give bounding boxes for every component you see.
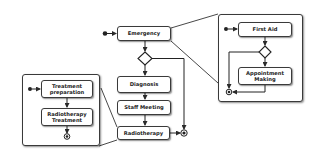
zoom-line-radiotherapy-bottom xyxy=(99,140,117,146)
activity-appointment-making: Appointment Making xyxy=(238,67,292,85)
activity-radiotherapy: Radiotherapy xyxy=(117,126,170,140)
initial-node-icon xyxy=(103,31,108,36)
activity-emergency: Emergency xyxy=(117,26,171,41)
activity-diagram: Emergency Diagnosis Staff Meeting Radiot… xyxy=(0,0,323,157)
activity-diagnosis: Diagnosis xyxy=(117,76,171,93)
zoom-line-emergency-top xyxy=(171,14,218,28)
activity-treatment-preparation: Treatment preparation xyxy=(41,80,93,98)
activity-staff-meeting: Staff Meeting xyxy=(117,100,171,115)
label-line: Making xyxy=(254,76,275,83)
label-line: preparation xyxy=(50,89,85,96)
zoom-line-radiotherapy-top xyxy=(101,88,117,127)
label-line: Treatment xyxy=(52,117,82,124)
decision-diamond-icon xyxy=(138,52,152,65)
activity-radiotherapy-treatment: Radiotherapy Treatment xyxy=(41,108,93,126)
activity-first-aid: First Aid xyxy=(238,22,292,37)
zoom-line-emergency-bottom xyxy=(171,41,218,83)
